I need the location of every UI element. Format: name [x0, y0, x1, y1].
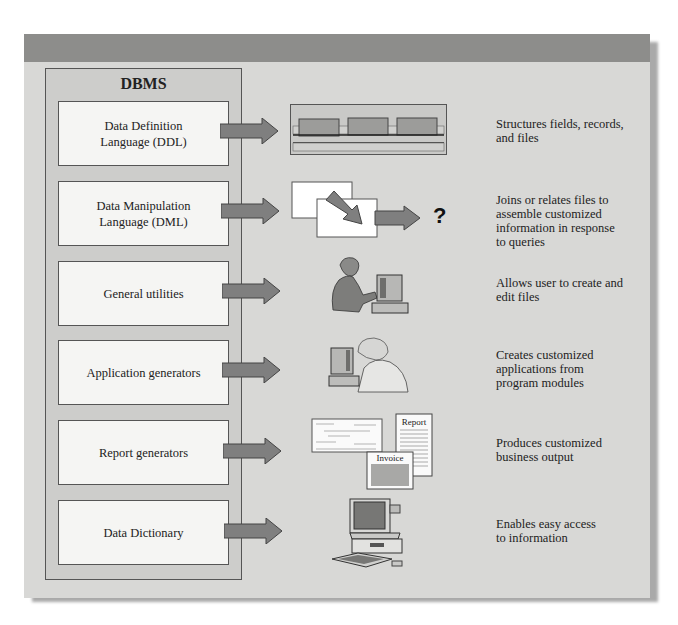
description-line: edit files: [496, 290, 636, 304]
man-at-computer-icon: [328, 332, 413, 394]
arrow-right-icon: [221, 198, 279, 224]
component-general-utilities: General utilities: [58, 261, 229, 326]
panel-header-bar: [24, 34, 650, 62]
description-line: Allows user to create and: [496, 276, 636, 290]
component-label: General utilities: [103, 286, 183, 302]
arrow-right-icon: [220, 118, 278, 144]
joined-files-icon: [290, 180, 440, 240]
description-line: Joins or relates files to: [496, 193, 636, 207]
arrow-right-icon: [222, 357, 280, 383]
invoice-label: Invoice: [377, 453, 404, 463]
description-report-generators: Produces customized business output: [496, 436, 636, 464]
arrow-right-icon: [222, 278, 280, 304]
description-line: to queries: [496, 235, 636, 249]
component-label: Language (DML): [96, 214, 190, 230]
description-line: to information: [496, 531, 636, 545]
description-line: information in response: [496, 221, 636, 235]
component-ddl: Data DefinitionLanguage (DDL): [58, 101, 229, 166]
description-line: assemble customized: [496, 207, 636, 221]
report-documents-icon: Report Invoice: [310, 412, 436, 492]
question-mark: ?: [433, 203, 446, 229]
dbms-container: DBMS Data DefinitionLanguage (DDL) Data …: [45, 68, 242, 580]
component-label: Language (DDL): [100, 134, 186, 150]
description-dml: Joins or relates files to assemble custo…: [496, 193, 636, 249]
description-general-utilities: Allows user to create and edit files: [496, 276, 636, 304]
description-line: Enables easy access: [496, 517, 636, 531]
description-line: Creates customized: [496, 348, 636, 362]
record-structure-icon: [290, 104, 448, 156]
description-line: business output: [496, 450, 636, 464]
component-label: Application generators: [86, 365, 200, 381]
description-line: Produces customized: [496, 436, 636, 450]
description-line: and files: [496, 131, 636, 145]
component-report-generators: Report generators: [58, 420, 229, 485]
component-label: Report generators: [99, 445, 188, 461]
component-label: Data Dictionary: [103, 525, 183, 541]
component-dml: Data ManipulationLanguage (DML): [58, 181, 229, 246]
desktop-computer-icon: [330, 495, 416, 573]
description-line: applications from: [496, 362, 636, 376]
description-ddl: Structures fields, records, and files: [496, 117, 636, 145]
component-application-generators: Application generators: [58, 340, 229, 405]
woman-at-computer-icon: [328, 255, 413, 317]
arrow-right-icon: [224, 518, 282, 544]
component-label: Data Definition: [100, 118, 186, 134]
description-application-generators: Creates customized applications from pro…: [496, 348, 636, 390]
dbms-title: DBMS: [46, 75, 241, 93]
report-label: Report: [402, 417, 427, 427]
component-data-dictionary: Data Dictionary: [58, 500, 229, 565]
description-data-dictionary: Enables easy access to information: [496, 517, 636, 545]
component-label: Data Manipulation: [96, 198, 190, 214]
arrow-right-icon: [223, 438, 281, 464]
description-line: program modules: [496, 376, 636, 390]
description-line: Structures fields, records,: [496, 117, 636, 131]
